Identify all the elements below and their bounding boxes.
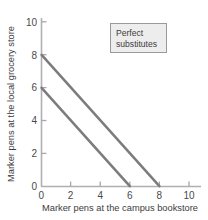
y-tick-label-10: 10 <box>26 17 38 28</box>
y-tick-label-4: 4 <box>31 115 37 126</box>
x-tick-label-8: 8 <box>157 190 163 201</box>
x-tick-label-2: 2 <box>68 190 74 201</box>
y-tick-label-0: 0 <box>31 181 37 192</box>
x-tick-label-10: 10 <box>183 190 195 201</box>
y-tick-label-8: 8 <box>31 50 37 61</box>
x-tick-label-4: 4 <box>97 190 103 201</box>
x-tick-label-6: 6 <box>127 190 133 201</box>
y-axis-title: Marker pens at the local grocery store <box>6 26 16 182</box>
x-axis-title: Marker pens at the campus bookstore <box>42 203 198 213</box>
x-tick-label-0: 0 <box>38 190 44 201</box>
chart-figure: 10 8 6 4 2 0 0 2 4 6 8 10 Marker pens at… <box>0 0 208 220</box>
legend-label-line1: Perfect <box>116 28 144 38</box>
y-tick-label-2: 2 <box>31 148 37 159</box>
y-tick-label-6: 6 <box>31 82 37 93</box>
legend-label-line2: substitutes <box>116 39 157 49</box>
chart-svg: 10 8 6 4 2 0 0 2 4 6 8 10 Marker pens at… <box>0 0 208 220</box>
legend-box: Perfect substitutes <box>111 24 167 53</box>
